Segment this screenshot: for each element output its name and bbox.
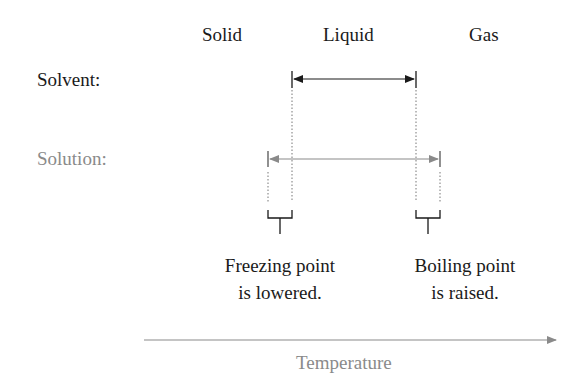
temperature-axis-label: Temperature xyxy=(296,352,392,374)
boiling-note-line1: Boiling point xyxy=(355,252,570,279)
boiling-point-bracket xyxy=(416,210,440,234)
phase-range-diagram xyxy=(0,0,570,381)
solvent-liquid-range-arrow xyxy=(292,71,416,88)
solution-liquid-range-arrow xyxy=(268,151,440,167)
freezing-point-bracket xyxy=(268,210,292,234)
boiling-note-line2: is raised. xyxy=(355,279,570,306)
boiling-point-note: Boiling point is raised. xyxy=(355,252,570,306)
